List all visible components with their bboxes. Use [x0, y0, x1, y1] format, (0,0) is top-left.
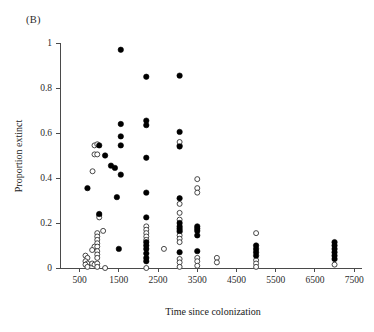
data-point — [118, 172, 123, 177]
y-axis-title: Proportion extinct — [13, 120, 24, 193]
data-point — [144, 155, 149, 160]
data-point — [161, 246, 166, 251]
x-tick-label: 500 — [72, 275, 87, 285]
data-point — [95, 255, 100, 260]
x-axis-ticks: 5001500250035004500550065007500 — [72, 268, 363, 285]
data-point — [97, 143, 102, 148]
data-point — [195, 263, 200, 268]
data-point — [177, 240, 182, 245]
data-point — [254, 264, 259, 269]
x-tick-label: 3500 — [188, 275, 207, 285]
y-tick-label: 0.8 — [40, 83, 52, 93]
data-point — [118, 143, 123, 148]
x-tick-label: 5500 — [266, 275, 285, 285]
data-point — [332, 262, 337, 267]
y-tick-label: 0.6 — [40, 128, 52, 138]
data-point — [114, 194, 119, 199]
data-point — [144, 259, 149, 264]
x-tick-label: 7500 — [345, 275, 364, 285]
data-point — [97, 211, 102, 216]
data-point — [144, 122, 149, 127]
data-point — [144, 215, 149, 220]
x-tick-label: 2500 — [149, 275, 168, 285]
data-point — [112, 165, 117, 170]
data-point — [90, 248, 95, 253]
x-tick-label: 1500 — [109, 275, 128, 285]
data-point — [177, 250, 182, 255]
chart-figure: (B) 00.20.40.60.81 500150025003500450055… — [0, 0, 374, 332]
data-point — [177, 201, 182, 206]
data-point — [195, 190, 200, 195]
data-point — [101, 228, 106, 233]
open-circle-points — [83, 140, 337, 271]
data-point — [254, 231, 259, 236]
data-point — [102, 153, 107, 158]
data-point — [85, 264, 90, 269]
data-point — [253, 253, 258, 258]
data-point — [118, 134, 123, 139]
data-point — [195, 233, 200, 238]
data-point — [195, 177, 200, 182]
y-axis-ticks: 00.20.40.60.81 — [40, 38, 60, 273]
y-tick-label: 1 — [47, 38, 52, 48]
data-point — [177, 129, 182, 134]
data-point — [332, 256, 337, 261]
data-point — [118, 121, 123, 126]
x-axis-title: Time since colonization — [165, 306, 261, 317]
data-point — [95, 264, 100, 269]
data-point — [118, 47, 123, 52]
scatter-plot: 00.20.40.60.81 5001500250035004500550065… — [0, 0, 374, 332]
data-point — [116, 246, 121, 251]
data-point — [177, 228, 182, 233]
data-point — [177, 210, 182, 215]
data-point — [90, 169, 95, 174]
filled-circle-points — [85, 47, 337, 264]
data-point — [144, 190, 149, 195]
data-point — [195, 248, 200, 253]
x-tick-label: 6500 — [305, 275, 324, 285]
y-tick-label: 0.2 — [40, 218, 52, 228]
y-tick-label: 0.4 — [40, 173, 52, 183]
data-point — [103, 266, 108, 271]
data-point — [214, 260, 219, 265]
data-point — [144, 266, 149, 271]
y-tick-label: 0 — [47, 263, 52, 273]
data-point — [85, 185, 90, 190]
x-tick-label: 4500 — [227, 275, 246, 285]
data-point — [177, 264, 182, 269]
data-point — [177, 196, 182, 201]
data-point — [177, 144, 182, 149]
data-point — [177, 73, 182, 78]
data-point — [144, 74, 149, 79]
panel-label: (B) — [26, 14, 41, 25]
data-point — [95, 152, 100, 157]
